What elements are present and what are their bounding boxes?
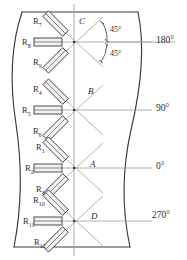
figure-canvas: R7 R8 R9 C 45° 45° R4 R5 R6 B R1 R2 R3 A… [0, 0, 187, 260]
rosette-C [34, 11, 175, 73]
rosette-C-gauge-8 [34, 38, 62, 46]
rosette-C-gauge-7 [43, 48, 68, 73]
gauge-label-R8: R8 [22, 38, 31, 49]
rosette-D-gauge-10 [43, 227, 68, 252]
rosette-A-gauge-2 [34, 164, 62, 172]
gauge-label-R7: R7 [33, 17, 42, 28]
rosette-B-gauge-4 [43, 116, 68, 141]
rosette-D-gauge-12 [43, 190, 68, 215]
gauge-label-R11: R11 [23, 217, 34, 228]
rosette-A-gauge-3 [43, 137, 68, 162]
rosette-B-gauge-6 [43, 79, 68, 104]
point-label-D: D [91, 212, 98, 221]
gauge-label-R10: R10 [33, 196, 45, 207]
gauge-label-R12: R12 [34, 238, 46, 249]
angle-arc-lower [99, 43, 108, 63]
rosette-D-gauge-11 [34, 217, 62, 225]
gauge-label-R1: R1 [36, 143, 45, 154]
gauge-label-R4: R4 [33, 85, 42, 96]
gauge-label-R2: R2 [25, 164, 34, 175]
shaft-outline [12, 12, 142, 247]
rosette-B-gauge-5 [34, 106, 62, 114]
axis-label-0: 0° [156, 162, 165, 172]
rosette-C-gauge-9 [43, 11, 68, 36]
angle-label-lower-45: 45° [110, 50, 121, 58]
point-label-A: A [90, 160, 96, 169]
angle-arc-upper [100, 21, 108, 43]
shaft-left-edge [12, 12, 22, 247]
axis-label-90: 90° [156, 104, 169, 114]
shaft-right-edge [124, 12, 142, 247]
gauge-label-R6: R6 [33, 127, 42, 138]
point-label-C: C [79, 17, 85, 26]
gauge-label-R5: R5 [22, 106, 31, 117]
gauge-label-R9: R9 [33, 58, 42, 69]
point-label-B: B [88, 87, 94, 96]
angle-label-upper-45: 45° [110, 26, 121, 34]
axis-label-180: 180° [156, 36, 174, 46]
axis-label-270: 270° [152, 211, 170, 221]
rosette-D [34, 190, 152, 252]
